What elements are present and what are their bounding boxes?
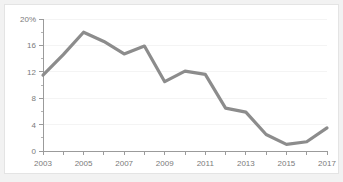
y-axis-labels: 048121620%: [20, 15, 37, 156]
line-chart: 048121620% 20032005200720092011201320152…: [5, 5, 338, 173]
x-axis-tick-label: 2007: [115, 159, 133, 168]
x-axis-tick-label: 2017: [318, 159, 336, 168]
data-series-line: [43, 32, 327, 144]
x-axis-tick-label: 2011: [197, 159, 215, 168]
x-axis-labels: 20032005200720092011201320152017: [34, 159, 336, 168]
x-axis-ticks: [43, 151, 327, 155]
y-axis-ticks: [39, 19, 43, 151]
y-axis-tick-label: 16: [27, 41, 36, 50]
x-axis-tick-label: 2015: [278, 159, 296, 168]
chart-card: 048121620% 20032005200720092011201320152…: [4, 4, 339, 174]
x-axis-tick-label: 2005: [75, 159, 93, 168]
x-axis-tick-label: 2009: [156, 159, 174, 168]
y-axis-tick-label: 0: [32, 147, 37, 156]
x-axis-tick-label: 2003: [34, 159, 52, 168]
y-axis-tick-label: 12: [27, 68, 36, 77]
y-axis-tick-label: 8: [32, 94, 37, 103]
y-axis-tick-label: 20%: [20, 15, 36, 24]
chart-plot-area: 048121620% 20032005200720092011201320152…: [5, 5, 338, 173]
x-axis-tick-label: 2013: [237, 159, 255, 168]
y-axis-tick-label: 4: [32, 121, 37, 130]
